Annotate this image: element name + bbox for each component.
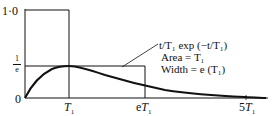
annotation-formula: t/T₁ exp (−t/T₁) [159,39,227,51]
x-tick-label-et1: eT1 [136,101,152,116]
x-tick-label-t1: T1 [64,101,74,116]
x-et1-main: T [141,100,148,114]
y-tick-label-0: 0 [15,93,21,105]
y-tick-label-1: 1·0 [2,5,18,17]
annotation-width: Width = e (T₁) [161,63,225,75]
y-inv-e-numerator: 1 [15,54,19,63]
chart-plot [0,0,278,116]
annotation-area: Area = T₁ [161,51,204,63]
x-t1-main: T [64,100,71,114]
annotation-leader-line [122,44,158,67]
rectangle-height-1 [25,10,69,98]
x-t1-sub: 1 [71,108,75,116]
x-et1-sub: 1 [148,108,152,116]
y-tick-label-inv-e: 1 e [13,55,21,74]
x-5t1-sub: 1 [252,108,256,116]
x-5t1-main: T [245,100,252,114]
x-tick-label-5t1: 5T1 [239,101,255,116]
y-inv-e-denominator: e [15,65,19,74]
